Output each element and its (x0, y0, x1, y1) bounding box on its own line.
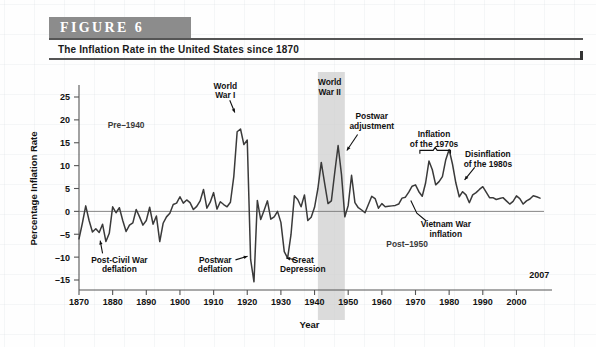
x-tick-label: 1990 (473, 297, 493, 307)
annotation-postwar-adjustment: Postwaradjustment (349, 111, 394, 131)
annotation-post-civil-war: Post-Civil Wardeflation (91, 255, 148, 275)
annotation-vietnam-war: Vietnam Warinflation (421, 219, 472, 239)
end-year-label: 2007 (529, 270, 549, 280)
x-tick-label: 1940 (305, 297, 325, 307)
header-rule-bottom (49, 58, 583, 60)
inflation-line-chart: –15–10–505101520251870188018901900191019… (0, 62, 596, 347)
y-tick-label: –15 (55, 275, 70, 285)
figure-header: FIGURE 6 The Inflation Rate in the Unite… (49, 17, 583, 60)
y-tick-label: –5 (60, 230, 70, 240)
figure-title: The Inflation Rate in the United States … (49, 40, 583, 58)
leader-postwar-deflation-head (243, 256, 247, 259)
leader-post-civil-war-head (99, 241, 102, 245)
annotation-post-1950: Post–1950 (386, 239, 428, 249)
x-tick-label: 1970 (405, 297, 425, 307)
annotation-world-war-i: WorldWar I (214, 81, 238, 101)
x-tick-label: 1960 (372, 297, 392, 307)
y-tick-label: 20 (60, 115, 70, 125)
x-tick-label: 1910 (204, 297, 224, 307)
leader-vietnam-war (411, 200, 426, 221)
annotations-layer: Pre–1940Post-Civil WardeflationPostwarde… (91, 77, 512, 274)
figure-number-badge: FIGURE 6 (49, 17, 191, 38)
y-tick-label: 5 (65, 184, 70, 194)
y-tick-label: 25 (60, 92, 70, 102)
x-tick-label: 1950 (338, 297, 358, 307)
chart-svg: –15–10–505101520251870188018901900191019… (0, 62, 596, 347)
axis-layer: –15–10–505101520251870188018901900191019… (28, 85, 552, 330)
x-axis-title: Year (299, 319, 319, 330)
y-tick-label: 15 (60, 138, 70, 148)
x-tick-label: 1930 (271, 297, 291, 307)
y-tick-label: –10 (55, 253, 70, 263)
annotation-disinflation-1980s: Disinflationof the 1980s (464, 149, 513, 169)
x-tick-label: 1880 (103, 297, 123, 307)
rule-endcap (580, 51, 583, 60)
y-tick-label: 0 (65, 207, 70, 217)
annotation-postwar-deflation: Postwardeflation (198, 255, 233, 275)
x-tick-label: 1900 (170, 297, 190, 307)
annotation-inflation-1970s: Inflationof the 1970s (410, 129, 459, 149)
annotation-pre-1940: Pre–1940 (108, 120, 145, 130)
annotation-world-war-ii: WorldWar II (318, 77, 342, 97)
x-tick-label: 1920 (237, 297, 257, 307)
x-tick-label: 1890 (136, 297, 156, 307)
y-axis-title: Percentage Inflation Rate (28, 131, 39, 245)
x-tick-label: 1870 (69, 297, 89, 307)
y-tick-label: 10 (60, 161, 70, 171)
x-tick-label: 1980 (439, 297, 459, 307)
x-tick-label: 2000 (506, 297, 526, 307)
